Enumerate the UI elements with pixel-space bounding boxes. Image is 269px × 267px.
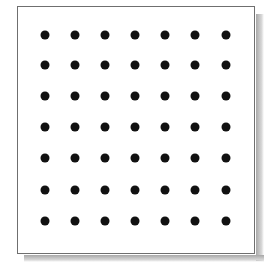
grid-dot (222, 217, 231, 226)
grid-dot (71, 217, 80, 226)
grid-dot (41, 186, 50, 195)
grid-dot (161, 186, 170, 195)
grid-dot (101, 217, 110, 226)
grid-dot (131, 154, 140, 163)
grid-dot (101, 61, 110, 70)
grid-dot (131, 123, 140, 132)
grid-dot (191, 154, 200, 163)
grid-dot (191, 61, 200, 70)
grid-dot (161, 217, 170, 226)
frame-shadow-bottom (24, 255, 264, 262)
grid-dot (41, 61, 50, 70)
grid-dot (161, 61, 170, 70)
grid-dot (222, 61, 231, 70)
grid-dot (191, 31, 200, 40)
grid-dot (41, 217, 50, 226)
grid-dot (222, 186, 231, 195)
grid-dot (131, 31, 140, 40)
grid-dot (191, 186, 200, 195)
grid-dot (131, 217, 140, 226)
grid-dot (71, 31, 80, 40)
grid-dot (191, 217, 200, 226)
grid-dot (161, 123, 170, 132)
grid-dot (222, 92, 231, 101)
grid-dot (222, 154, 231, 163)
grid-dot (101, 154, 110, 163)
grid-dot (222, 31, 231, 40)
frame-shadow-right (256, 14, 264, 261)
grid-dot (161, 154, 170, 163)
grid-dot (41, 92, 50, 101)
grid-dot (41, 154, 50, 163)
grid-dot (101, 123, 110, 132)
grid-dot (41, 31, 50, 40)
grid-dot (222, 123, 231, 132)
grid-dot (71, 123, 80, 132)
grid-dot (71, 92, 80, 101)
grid-dot (131, 186, 140, 195)
grid-dot (71, 186, 80, 195)
grid-dot (101, 92, 110, 101)
grid-dot (71, 154, 80, 163)
grid-dot (71, 61, 80, 70)
grid-dot (101, 186, 110, 195)
grid-dot (191, 92, 200, 101)
grid-dot (131, 92, 140, 101)
grid-dot (41, 123, 50, 132)
grid-dot (191, 123, 200, 132)
grid-dot (161, 92, 170, 101)
grid-dot (101, 31, 110, 40)
grid-dot (131, 61, 140, 70)
grid-dot (161, 31, 170, 40)
